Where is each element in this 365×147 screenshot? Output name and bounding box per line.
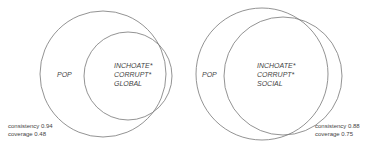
right-inner-line-2: CORRUPT* <box>257 70 295 79</box>
left-coverage: coverage 0.48 <box>8 130 53 138</box>
right-consistency: consistency 0.88 <box>315 122 360 130</box>
left-consistency: consistency 0.94 <box>8 122 53 130</box>
left-stats: consistency 0.94 coverage 0.48 <box>8 122 53 138</box>
right-inner-label: INCHOATE* CORRUPT* SOCIAL <box>257 61 295 88</box>
venn-diagrams <box>0 0 365 147</box>
left-inner-line-2: CORRUPT* <box>114 70 152 79</box>
right-inner-line-1: INCHOATE* <box>257 61 295 70</box>
left-inner-line-1: INCHOATE* <box>114 61 152 70</box>
right-outer-label: POP <box>202 70 217 79</box>
right-stats: consistency 0.88 coverage 0.75 <box>315 122 360 138</box>
left-outer-label: POP <box>57 70 72 79</box>
left-inner-line-3: GLOBAL <box>114 79 152 88</box>
left-inner-label: INCHOATE* CORRUPT* GLOBAL <box>114 61 152 88</box>
right-inner-line-3: SOCIAL <box>257 79 295 88</box>
right-coverage: coverage 0.75 <box>315 130 360 138</box>
